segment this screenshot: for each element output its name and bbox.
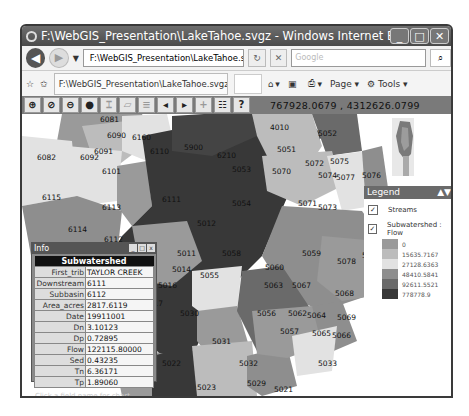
back-button[interactable]: ◀	[26, 48, 45, 68]
refresh-button[interactable]: ↻	[248, 49, 265, 67]
field-name-button[interactable]: Tp	[35, 377, 86, 388]
attribute-table-header: Subwatershed	[35, 256, 154, 267]
tab-current[interactable]: F:\WebGIS_Presentation\LakeTahoe.svgz	[54, 73, 228, 95]
field-name-button[interactable]: Subbasin	[35, 289, 86, 300]
subwatershed-checkbox[interactable]: ✓	[368, 224, 377, 234]
new-tab-button[interactable]	[234, 74, 262, 94]
legend-swatch	[382, 259, 398, 269]
search-button[interactable]: ⌕	[430, 49, 451, 67]
window-title: F:\WebGIS_Presentation\LakeTahoe.svgz - …	[41, 29, 390, 43]
layers-icon[interactable]: ≡	[138, 97, 155, 113]
address-bar[interactable]: F:\WebGIS_Presentation\LakeTahoe.svgz	[83, 49, 244, 67]
legend-header: Legend ▲▼	[364, 186, 451, 199]
pan-right-icon[interactable]: ▸	[176, 97, 193, 113]
zoom-out-icon[interactable]: ⊖	[62, 97, 79, 113]
attribute-row: Sed0.43235	[35, 355, 154, 366]
help-icon[interactable]: ?	[233, 97, 250, 113]
forward-button[interactable]: ▶	[49, 48, 68, 68]
subwatershed-id-label: 5060	[265, 263, 284, 272]
info-icon[interactable]: ●	[81, 97, 98, 113]
minimize-button[interactable]: _	[390, 28, 409, 44]
minimize-info-button[interactable]: _	[129, 244, 137, 252]
subwatershed-id-label: 6113	[102, 203, 121, 212]
subwatershed-id-label: 6110	[150, 147, 169, 156]
field-name-button[interactable]: First_trib	[35, 267, 86, 278]
maximize-info-button[interactable]: □	[138, 244, 146, 252]
field-name-button[interactable]: Flow	[35, 344, 86, 355]
home-icon[interactable]: ⌂	[268, 79, 274, 89]
field-name-button[interactable]: Area_acres	[35, 300, 86, 311]
overview-map[interactable]	[392, 118, 414, 176]
field-value: 1.89060	[86, 377, 154, 388]
zoom-box-icon[interactable]: ⊘	[43, 97, 60, 113]
legend-layer-subwatershed[interactable]: ✓ Subwatershed : Flow	[368, 221, 451, 237]
subwatershed-id-label: 5055	[200, 271, 219, 280]
subwatershed-id-label: 6114	[68, 225, 87, 234]
add-point-icon[interactable]: +	[195, 97, 212, 113]
subwatershed-id-label: 5021	[274, 385, 293, 394]
legend-title: Legend	[367, 186, 437, 199]
field-name-button[interactable]: Date	[35, 311, 86, 322]
field-name-button[interactable]: Tn	[35, 366, 86, 377]
field-value: 3.10123	[86, 322, 154, 333]
add-favorites-icon[interactable]: ✩	[40, 79, 48, 89]
field-name-button[interactable]: Dn	[35, 322, 86, 333]
field-value: 122115.80000	[86, 344, 154, 355]
attribute-row: Flow122115.80000	[35, 344, 154, 355]
legend-toggle-icon[interactable]: ☷	[214, 97, 231, 113]
subwatershed-id-label: 5032	[239, 359, 258, 368]
subwatershed-id-label: 5056	[257, 309, 276, 318]
pan-left-icon[interactable]: ◂	[157, 97, 174, 113]
zoom-in-icon[interactable]: ⊕	[24, 97, 41, 113]
attribute-row: Area_acres2817.6119	[35, 300, 154, 311]
feeds-icon[interactable]: ▣	[288, 79, 297, 89]
maximize-button[interactable]: □	[410, 28, 429, 44]
area-icon[interactable]: ▱	[119, 97, 136, 113]
field-name-button[interactable]: Downstream	[35, 278, 86, 289]
favorites-star-icon[interactable]: ☆	[26, 79, 34, 89]
subwatershed-id-label: 5054	[232, 199, 251, 208]
attribute-table: Subwatershed First_tribTAYLOR CREEKDowns…	[34, 256, 154, 388]
field-value: TAYLOR CREEK	[86, 267, 154, 278]
subwatershed-id-label: 6115	[42, 193, 61, 202]
subwatershed-id-label: 5012	[197, 219, 216, 228]
tools-menu[interactable]: ⚙ Tools ▾	[367, 79, 408, 89]
attribute-row: First_tribTAYLOR CREEK	[35, 267, 154, 278]
legend-panel: Legend ▲▼ ✓ Streams ✓ Subwatershed : Flo…	[364, 186, 451, 298]
subwatershed-id-label: 6111	[162, 195, 181, 204]
subwatershed-id-label: 5064	[307, 311, 326, 320]
subwatershed-id-label: 5065	[312, 329, 331, 338]
subwatershed-id-label: 6092	[80, 153, 99, 162]
subwatershed-id-label: 5014	[172, 265, 191, 274]
legend-class: 0	[382, 239, 451, 249]
info-panel: Info _ □ x Subwatershed First_tribTAYLOR…	[31, 242, 157, 382]
legend-class-label: 48410.5841	[402, 271, 438, 278]
field-name-button[interactable]: Dp	[35, 333, 86, 344]
stop-button[interactable]: ✕	[270, 49, 287, 67]
navigation-bar: ◀ ▶ ▼ F:\WebGIS_Presentation\LakeTahoe.s…	[22, 46, 451, 71]
subwatershed-id-label: 6101	[102, 167, 121, 176]
history-dropdown-icon[interactable]: ▼	[73, 54, 79, 63]
subwatershed-label: Subwatershed : Flow	[387, 221, 451, 237]
subwatershed-id-label: 5057	[280, 327, 299, 336]
measure-icon[interactable]: ⌶	[100, 97, 117, 113]
subwatershed-id-label: 5077	[336, 173, 355, 182]
subwatershed-id-label: 6081	[100, 115, 119, 124]
subwatershed-id-label: 5072	[305, 159, 324, 168]
legend-layer-streams[interactable]: ✓ Streams	[368, 205, 451, 215]
field-value: 0.43235	[86, 355, 154, 366]
attribute-row: Date19911001	[35, 311, 154, 322]
print-icon[interactable]: ⎙	[308, 78, 315, 89]
legend-swatch	[382, 289, 398, 299]
subwatershed-id-label: 5059	[302, 249, 321, 258]
legend-collapse-icon[interactable]: ▲▼	[437, 186, 451, 199]
close-button[interactable]: ✕	[430, 28, 449, 44]
close-info-button[interactable]: x	[147, 244, 155, 252]
ie-logo-icon	[26, 31, 37, 42]
subwatershed-id-label: 5033	[318, 359, 337, 368]
streams-checkbox[interactable]: ✓	[368, 205, 378, 215]
subwatershed-id-label: 5066	[332, 331, 351, 340]
field-name-button[interactable]: Sed	[35, 355, 86, 366]
search-input[interactable]: Google	[291, 49, 425, 67]
page-menu[interactable]: Page ▾	[330, 79, 359, 89]
